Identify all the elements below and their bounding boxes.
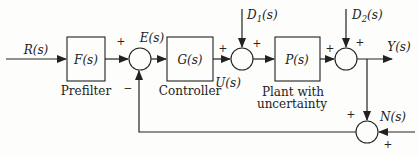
- junction-sum1: [129, 48, 151, 70]
- block-controller-symbol: G(s): [177, 53, 202, 67]
- control-block-diagram: R(s) F(s) Prefilter + E(s) − G(s) Contro…: [0, 0, 419, 156]
- junction-sum3: [335, 48, 357, 70]
- disturbance2-argument: (s): [367, 8, 383, 22]
- label-disturbance2-signal: D2(s): [351, 8, 383, 24]
- label-disturbance1-signal: D1(s): [246, 8, 278, 24]
- figure-canvas: R(s) F(s) Prefilter + E(s) − G(s) Contro…: [0, 0, 419, 156]
- caption-controller: Controller: [159, 84, 222, 98]
- sign-sum1-minus: −: [124, 82, 133, 94]
- sign-sum3-plus-top: +: [356, 36, 365, 48]
- disturbance1-base: D: [246, 8, 257, 22]
- caption-prefilter: Prefilter: [61, 84, 112, 98]
- junction-sum4: [356, 121, 378, 143]
- sign-sum1-plus: +: [117, 35, 126, 47]
- caption-plant-line2: uncertainty: [257, 97, 327, 111]
- label-control-signal: U(s): [215, 76, 241, 90]
- block-plant-symbol: P(s): [284, 53, 309, 67]
- disturbance2-base: D: [351, 8, 362, 22]
- block-prefilter-symbol: F(s): [73, 53, 98, 67]
- disturbance1-argument: (s): [262, 8, 278, 22]
- sign-sum3-plus-left: +: [326, 42, 335, 54]
- label-output-signal: Y(s): [387, 40, 411, 54]
- sign-sum2-plus-left: +: [219, 42, 228, 54]
- junction-sum2: [231, 48, 253, 70]
- label-noise-signal: N(s): [379, 110, 406, 124]
- label-error-signal: E(s): [139, 31, 165, 45]
- sign-sum2-plus-top: +: [253, 37, 262, 49]
- sign-sum4-plus-top: +: [347, 108, 356, 120]
- label-reference-signal: R(s): [23, 43, 49, 57]
- sign-sum4-plus-bottom: +: [384, 138, 393, 150]
